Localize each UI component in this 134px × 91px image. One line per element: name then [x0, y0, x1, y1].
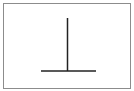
diagram-canvas [0, 0, 134, 91]
